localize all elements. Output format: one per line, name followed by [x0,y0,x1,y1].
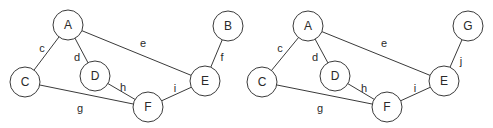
node-D: D [80,61,110,91]
edge-label-d: d [74,51,80,63]
node-D: D [320,61,350,91]
edge-label-e: e [140,37,146,49]
node-A: A [53,10,83,40]
node-E: E [429,66,459,96]
edge-label-f: f [220,51,224,63]
node-label: F [144,100,151,114]
edge-label-d: d [312,51,318,63]
edge-label-j: j [459,55,462,67]
node-C: C [10,67,40,97]
node-label: C [258,75,267,89]
node-A: A [293,11,323,41]
node-label: E [440,74,448,88]
edge-label-i: i [174,82,176,94]
node-F: F [133,92,163,122]
node-label: B [224,19,232,33]
node-E: E [190,66,220,96]
edge-label-e: e [381,37,387,49]
node-F: F [372,92,402,122]
edge-label-g: g [77,102,83,114]
edge-label-c: c [39,42,45,54]
edge-label-h: h [361,82,367,94]
node-label: E [201,74,209,88]
node-label: C [21,75,30,89]
node-B: B [213,11,243,41]
node-label: A [304,19,312,33]
graph-diagram: ACDFEBACDFEG cdefghicdejghi [0,0,493,128]
edge-label-i: i [414,82,416,94]
node-label: A [64,18,72,32]
edge-label-g: g [317,102,323,114]
node-label: D [331,69,340,83]
node-label: F [383,100,390,114]
edge-label-c: c [277,42,283,54]
node-C: C [247,67,277,97]
node-label: D [91,69,100,83]
edge-label-h: h [120,81,126,93]
node-label: G [463,19,472,33]
node-G: G [453,11,483,41]
